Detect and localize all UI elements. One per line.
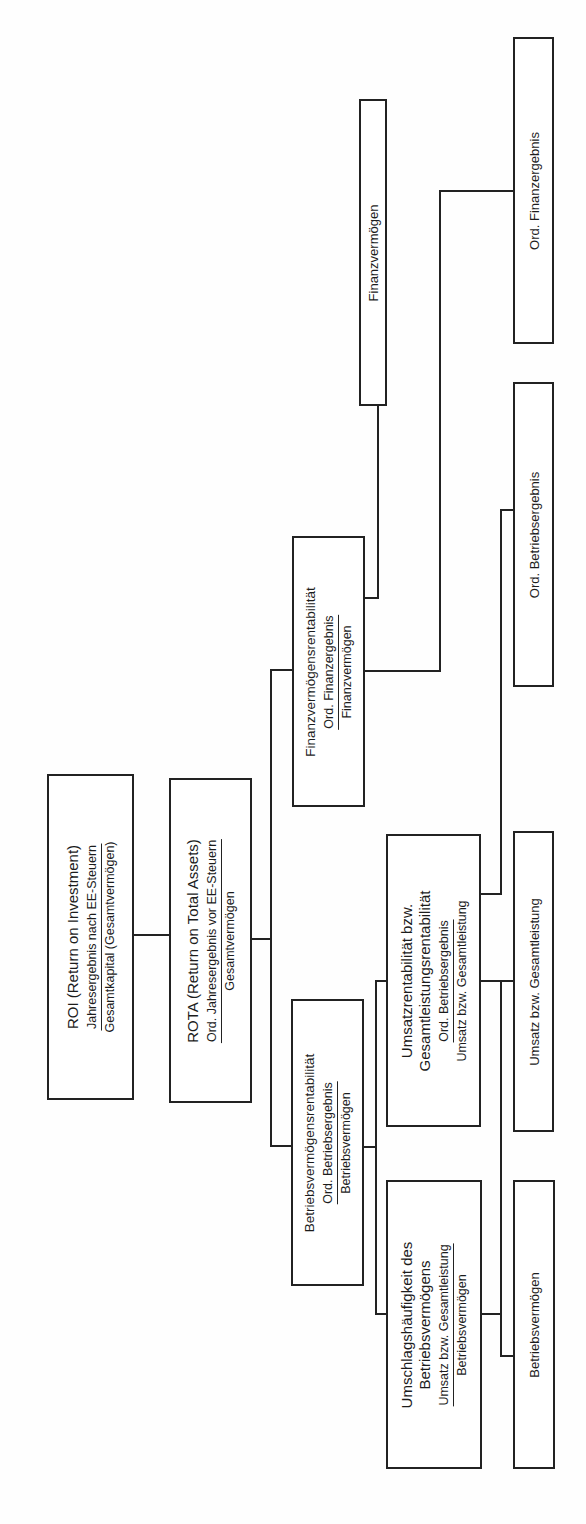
- rota-title: ROTA (Return on Total Assets): [184, 839, 202, 1043]
- umschlag-formula: Umsatz bzw. Gesamtleistung Betriebsvermö…: [437, 1243, 470, 1406]
- connector-bvr-trunk: [375, 980, 377, 1315]
- node-finanzvermoegen: Finanzvermögen: [359, 99, 387, 406]
- connector-to-umsatz-trunk: [500, 980, 502, 1355]
- bvr-formula: Ord. Betriebsergebnis Betriebsvermögen: [321, 1081, 354, 1205]
- connector-umsatzrent-out-a: [480, 893, 502, 895]
- node-rota: ROTA (Return on Total Assets) Ord. Jahre…: [169, 778, 252, 1103]
- umschlag-title-1: Umschlagshäufigkeit des: [398, 1241, 416, 1408]
- fvr-title: Finanzvermögensrentabilität: [303, 587, 319, 757]
- connector-to-bvr: [270, 1145, 292, 1147]
- node-finanzvermoegensrentabilitaet: Finanzvermögensrentabilität Ord. Finanze…: [292, 536, 365, 807]
- bvr-title: Betriebsvermögensrentabilität: [302, 1053, 318, 1232]
- connector-umschlag-out: [481, 1313, 501, 1315]
- umsatz-label: Umsatz bzw. Gesamtleistung: [526, 898, 541, 1066]
- umsatzrent-formula: Ord. Betriebsergebnis Umsatz bzw. Gesamt…: [437, 900, 470, 1061]
- connector-to-umsatz-a: [500, 980, 514, 982]
- umsatzrent-title-1: Umsatzrentabilität bzw.: [398, 903, 416, 1057]
- roi-numerator: Jahresergebnis nach EE-Steuern: [85, 844, 102, 1030]
- umschlag-numerator: Umsatz bzw. Gesamtleistung: [437, 1243, 454, 1406]
- connector-fvr-out-a: [364, 597, 378, 599]
- ord-finanzergebnis-label: Ord. Finanzergebnis: [526, 132, 541, 250]
- node-betriebsvermoegensrentabilitaet: Betriebsvermögensrentabilität Ord. Betri…: [291, 999, 364, 1286]
- connector-to-ordbetr: [500, 509, 514, 511]
- umschlag-title-2: Betriebsvermögens: [416, 1260, 434, 1389]
- betriebsvermoegen-label: Betriebsvermögen: [527, 1272, 542, 1378]
- bvr-denominator: Betriebsvermögen: [338, 1092, 354, 1193]
- roi-formula: Jahresergebnis nach EE-Steuern Gesamtkap…: [85, 841, 118, 1032]
- fvr-denominator: Finanzvermögen: [339, 625, 355, 718]
- connector-fvr-ordfin-trunk: [439, 190, 441, 672]
- node-ord-betriebsergebnis: Ord. Betriebsergebnis: [513, 382, 554, 687]
- roi-title: ROI (Return on Investment): [64, 845, 82, 1029]
- fvr-formula: Ord. Finanzergebnis Finanzvermögen: [322, 614, 355, 729]
- connector-fvr-finanzvermoegen: [377, 404, 379, 599]
- connector-fvr-out-b: [364, 670, 441, 672]
- umsatzrent-denominator: Umsatz bzw. Gesamtleistung: [454, 900, 470, 1061]
- node-umsatzrentabilitaet: Umsatzrentabilität bzw. Gesamtleistungsr…: [386, 834, 481, 1127]
- node-betriebsvermoegen: Betriebsvermögen: [513, 1180, 555, 1469]
- rota-numerator: Ord. Jahresergebnis vor EE-Steuern: [205, 838, 222, 1042]
- umsatzrent-title-2: Gesamtleistungsrentabilität: [416, 890, 434, 1071]
- bvr-numerator: Ord. Betriebsergebnis: [321, 1081, 338, 1205]
- node-umsatz: Umsatz bzw. Gesamtleistung: [513, 831, 554, 1132]
- umschlag-denominator: Betriebsvermögen: [454, 1274, 470, 1375]
- connector-roi-rota: [133, 934, 170, 936]
- connector-umsatzrent-ordbetr: [500, 509, 502, 895]
- connector-to-betriebsvermoegen: [500, 1355, 514, 1357]
- connector-to-ordfin: [439, 190, 515, 192]
- node-roi: ROI (Return on Investment) Jahresergebni…: [47, 774, 134, 1100]
- connector-to-fvr: [270, 669, 292, 671]
- fvr-numerator: Ord. Finanzergebnis: [322, 614, 339, 729]
- rota-denominator: Gesamtvermögen: [222, 891, 238, 990]
- ratio-tree-diagram: ROI (Return on Investment) Jahresergebni…: [0, 0, 586, 1524]
- node-ord-finanzergebnis: Ord. Finanzergebnis: [513, 37, 554, 344]
- finanzvermoegen-label: Finanzvermögen: [366, 204, 381, 301]
- umsatzrent-numerator: Ord. Betriebsergebnis: [437, 919, 454, 1043]
- connector-rota-out: [251, 938, 272, 940]
- rota-formula: Ord. Jahresergebnis vor EE-Steuern Gesam…: [205, 838, 238, 1042]
- roi-denominator: Gesamtkapital (Gesamtvermögen): [102, 841, 118, 1032]
- connector-umsatzrent-out-b: [480, 980, 500, 982]
- node-umschlagshaeufigkeit: Umschlagshäufigkeit des Betriebsvermögen…: [386, 1180, 482, 1469]
- ord-betriebsergebnis-label: Ord. Betriebsergebnis: [526, 471, 541, 597]
- connector-rota-trunk: [270, 669, 272, 1147]
